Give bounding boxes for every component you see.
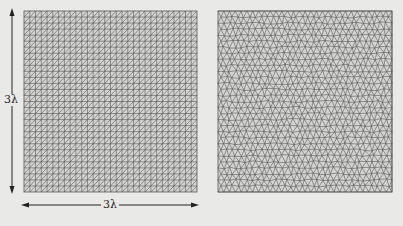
arrow-up-icon [10,8,15,16]
horizontal-dimension-label: 3λ [101,199,119,211]
structured-mesh [24,11,197,192]
arrow-left-icon [21,203,29,208]
unstructured-mesh [218,11,392,192]
arrow-right-icon [191,203,199,208]
vertical-dimension-label: 3λ [2,94,20,106]
arrow-down-icon [10,186,15,194]
mesh-figure [0,0,403,226]
